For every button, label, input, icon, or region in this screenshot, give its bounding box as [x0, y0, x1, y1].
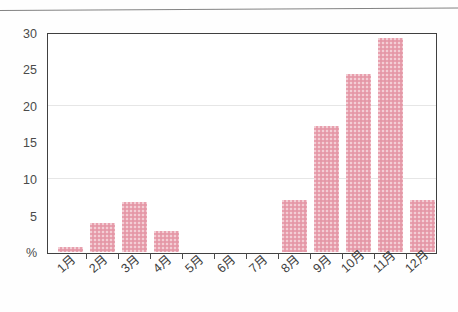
y-tick-label-20: 20	[23, 101, 37, 114]
bar-12[interactable]	[410, 200, 435, 252]
bar-8[interactable]	[282, 200, 307, 252]
y-axis-unit-label-percent: %	[26, 247, 37, 260]
y-tick-label-25: 25	[23, 64, 37, 77]
y-tick-label-15: 15	[23, 137, 37, 150]
bar-10[interactable]	[346, 74, 371, 252]
bar-4[interactable]	[154, 231, 179, 253]
y-axis: 30 25 20 15 10 5 %	[0, 0, 47, 312]
bar-9[interactable]	[314, 126, 339, 252]
bar-11[interactable]	[378, 38, 403, 252]
bar-series	[47, 33, 437, 254]
y-tick-label-10: 10	[23, 174, 37, 187]
x-axis-labels: 1月 2月 3月 4月 5月 6月 7月 8月 9月 10月 11月 12月	[47, 258, 447, 312]
y-tick-label-5: 5	[30, 211, 37, 224]
bar-2[interactable]	[90, 223, 115, 252]
bar-3[interactable]	[122, 202, 147, 253]
page-divider-rule	[0, 7, 458, 11]
y-tick-label-30: 30	[23, 28, 37, 41]
bar-1[interactable]	[58, 247, 83, 252]
chart-figure: 30 25 20 15 10 5 %	[0, 0, 458, 312]
